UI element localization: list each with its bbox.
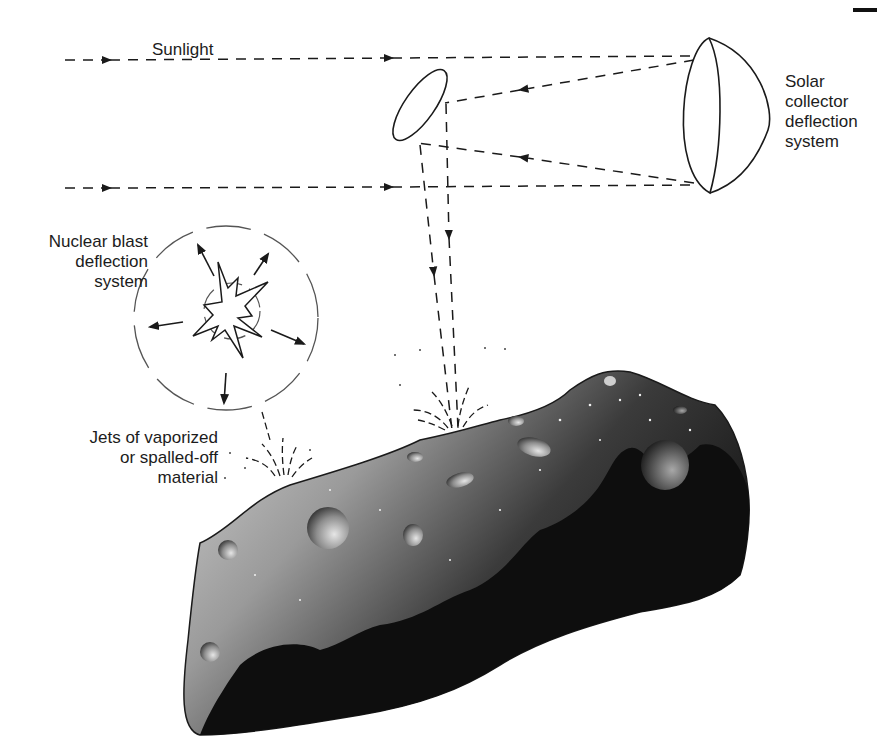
asteroid [184, 371, 749, 735]
nuclear-blast-system [134, 226, 318, 410]
label-solar-collector: Solar collector deflection system [785, 72, 858, 152]
ejecta-jet-right [413, 384, 488, 430]
explosion-starburst-icon [193, 262, 268, 358]
asteroid-deflection-diagram [0, 0, 881, 742]
corner-mark [853, 8, 877, 12]
ejecta-jet-left [246, 412, 312, 477]
label-nuclear-blast: Nuclear blast deflection system [30, 232, 148, 292]
solar-collector-mirror [683, 38, 769, 193]
label-jets: Jets of vaporized or spalled-off materia… [28, 428, 218, 488]
label-sunlight: Sunlight [152, 40, 213, 60]
